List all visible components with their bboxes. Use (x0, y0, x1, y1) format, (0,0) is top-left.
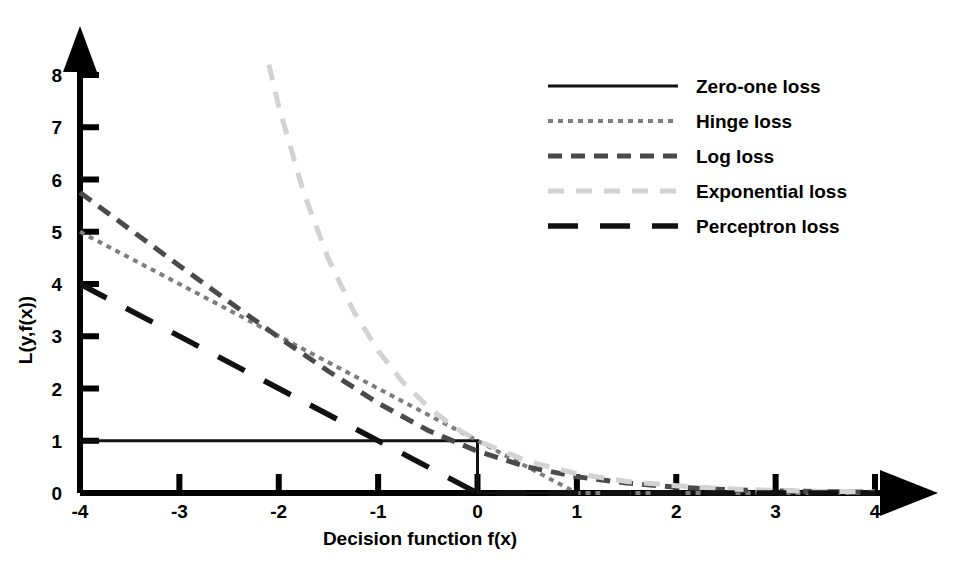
y-tick-labels: 012345678 (51, 65, 62, 504)
y-tick-label: 7 (51, 117, 62, 138)
x-tick-label: 4 (870, 501, 881, 522)
x-axis-label: Decision function f(x) (323, 528, 517, 549)
legend-label: Hinge loss (696, 111, 792, 132)
y-tick-label: 8 (51, 65, 62, 86)
x-tick-label: -1 (370, 501, 387, 522)
y-tick-label: 6 (51, 170, 62, 191)
legend-label: Zero-one loss (696, 76, 821, 97)
x-tick-label: 0 (472, 501, 483, 522)
legend-label: Perceptron loss (696, 216, 840, 237)
x-tick-label: -2 (270, 501, 287, 522)
y-tick-label: 1 (51, 431, 62, 452)
x-tick-label: 1 (572, 501, 583, 522)
legend-label: Exponential loss (696, 181, 847, 202)
y-axis-label: L(y,f(x)) (15, 296, 36, 364)
y-tick-label: 2 (51, 379, 62, 400)
y-tick-label: 3 (51, 326, 62, 347)
legend-label: Log loss (696, 146, 774, 167)
x-tick-label: 3 (770, 501, 781, 522)
y-tick-label: 4 (51, 274, 62, 295)
y-tick-label: 5 (51, 222, 62, 243)
y-tick-label: 0 (51, 483, 62, 504)
loss-function-chart: -4-3-2-101234 012345678 Decision functio… (0, 0, 961, 568)
x-tick-label: -3 (171, 501, 188, 522)
x-tick-label: 2 (671, 501, 682, 522)
chart-canvas: -4-3-2-101234 012345678 Decision functio… (0, 0, 961, 568)
x-tick-label: -4 (72, 501, 89, 522)
